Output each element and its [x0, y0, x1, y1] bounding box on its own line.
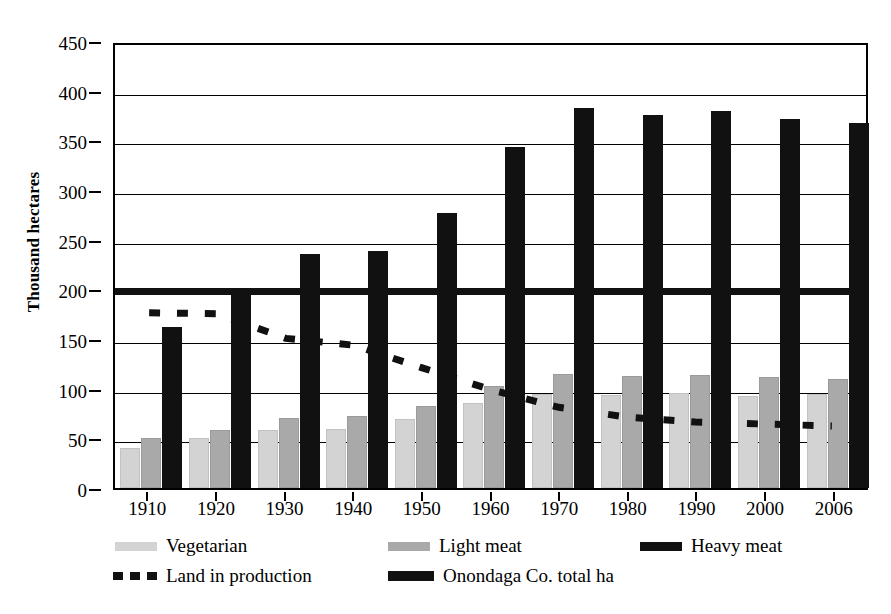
legend-item: Light meat	[388, 532, 522, 560]
land-in-production-series	[115, 45, 866, 488]
x-tick-label: 1990	[677, 498, 715, 520]
chart-figure: Thousand hectares 0501001502002503003504…	[0, 0, 891, 614]
x-tick-label: 1980	[609, 498, 647, 520]
solid-line-swatch-icon	[388, 571, 434, 581]
y-tick	[89, 141, 101, 143]
x-tick-label: 1940	[334, 498, 372, 520]
legend-label: Light meat	[439, 535, 522, 557]
y-tick-label: 250	[59, 232, 88, 251]
y-tick-label: 50	[68, 431, 87, 450]
x-tick-label: 1970	[540, 498, 578, 520]
y-tick-label: 400	[59, 83, 88, 102]
x-tick-label: 1910	[128, 498, 166, 520]
legend-label: Onondaga Co. total ha	[443, 565, 614, 587]
y-tick	[89, 92, 101, 94]
onondaga-total-line	[115, 288, 866, 295]
y-tick-label: 0	[78, 481, 88, 500]
x-tick-label: 2006	[815, 498, 853, 520]
legend-item: Vegetarian	[115, 532, 247, 560]
dashed-line-swatch-icon	[113, 572, 157, 580]
y-tick	[89, 241, 101, 243]
y-tick	[89, 290, 101, 292]
y-tick	[89, 489, 101, 491]
y-tick	[89, 340, 101, 342]
y-tick	[89, 390, 101, 392]
y-tick-label: 350	[59, 133, 88, 152]
legend-row-2: Land in productionOnondaga Co. total ha	[113, 562, 883, 590]
y-tick-label: 300	[59, 183, 88, 202]
x-tick-label: 1930	[266, 498, 304, 520]
y-tick	[89, 191, 101, 193]
y-tick-label: 450	[59, 34, 88, 53]
legend-label: Vegetarian	[166, 535, 247, 557]
chart-legend: VegetarianLight meatHeavy meat Land in p…	[113, 532, 883, 594]
legend-label: Heavy meat	[691, 535, 782, 557]
y-axis: 050100150200250300350400450	[0, 43, 105, 490]
legend-row-1: VegetarianLight meatHeavy meat	[113, 532, 883, 560]
x-tick-label: 1950	[403, 498, 441, 520]
heavy-meat-swatch-icon	[640, 542, 682, 551]
x-tick-label: 2000	[746, 498, 784, 520]
x-tick-label: 1920	[197, 498, 235, 520]
y-tick	[89, 42, 101, 44]
plot-area	[113, 43, 868, 490]
legend-label: Land in production	[166, 565, 312, 587]
land-in-production-line	[149, 313, 832, 426]
y-tick	[89, 439, 101, 441]
y-tick-label: 150	[59, 332, 88, 351]
y-tick-label: 200	[59, 282, 88, 301]
x-tick-label: 1960	[472, 498, 510, 520]
light-meat-swatch-icon	[388, 542, 430, 551]
legend-item: Heavy meat	[640, 532, 782, 560]
legend-item: Onondaga Co. total ha	[388, 562, 614, 590]
y-tick-label: 100	[59, 381, 88, 400]
legend-item: Land in production	[113, 562, 312, 590]
x-axis: 1910192019301940195019601970198019902000…	[113, 492, 868, 526]
veg-swatch-icon	[115, 542, 157, 551]
